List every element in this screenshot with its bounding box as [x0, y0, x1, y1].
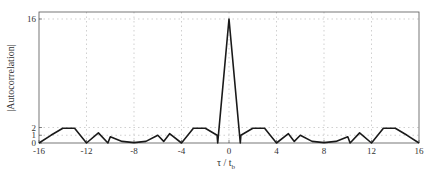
x-tick-label: -8 [130, 146, 138, 156]
x-axis-label: τ / tb [217, 157, 236, 171]
y-axis-label: |Autocorrelation| [5, 44, 16, 111]
autocorrelation-chart: -16-12-8-4048121601216 |Autocorrelation|… [0, 0, 432, 173]
x-axis-label-main: τ / t [217, 157, 232, 168]
x-tick-label: -12 [81, 146, 93, 156]
grid [39, 12, 419, 143]
x-tick-label: 8 [322, 146, 327, 156]
axes-box [39, 12, 419, 143]
x-tick-label: 0 [227, 146, 232, 156]
x-tick-label: 16 [415, 146, 425, 156]
x-tick-label: 4 [274, 146, 279, 156]
x-tick-label: 12 [367, 146, 376, 156]
x-tick-label: -4 [178, 146, 186, 156]
y-tick-label: 2 [32, 123, 37, 133]
x-axis-label-sub: b [232, 163, 236, 171]
y-tick-label: 16 [27, 14, 37, 24]
